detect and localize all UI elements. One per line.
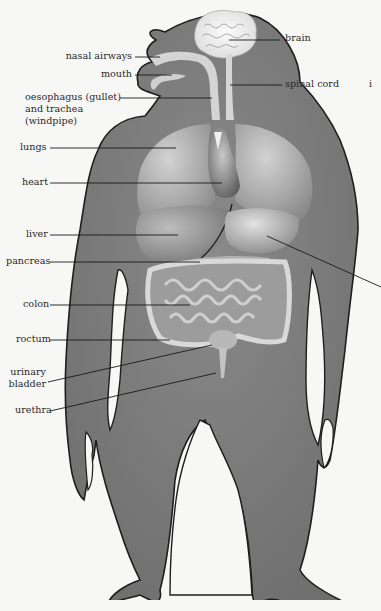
label-colon: colon: [23, 298, 49, 310]
label-pancreas: pancreas: [6, 255, 50, 267]
label-spinal-cord: spinal cord: [285, 78, 339, 90]
label-lungs: lungs: [20, 141, 47, 153]
anatomy-diagram: brain nasal airways mouth spinal cord i …: [0, 0, 381, 611]
label-liver: liver: [26, 228, 48, 240]
label-oesophagus-line3: (windpipe): [25, 115, 77, 127]
label-cut-off-right: i: [369, 78, 372, 90]
label-nasal-airways: nasal airways: [60, 50, 132, 62]
label-rectum: roctum: [16, 333, 51, 345]
label-oesophagus-line1: oesophagus (gullet): [25, 91, 121, 103]
label-heart: heart: [22, 176, 48, 188]
label-urinary-line2: bladder: [8, 378, 46, 390]
label-mouth: mouth: [80, 68, 132, 80]
label-urethra: urethra: [15, 404, 52, 416]
label-oesophagus-line2: and trachea: [25, 103, 83, 115]
right-hand-gap: [321, 419, 333, 468]
urinary-bladder: [209, 330, 237, 350]
label-brain: brain: [285, 32, 311, 44]
label-urinary-line1: urinary: [8, 366, 46, 378]
